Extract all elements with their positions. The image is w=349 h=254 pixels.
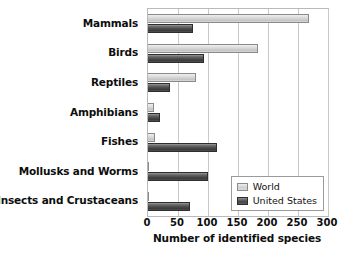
- plot-area: WorldUnited States: [147, 8, 329, 217]
- x-tick-label: 300: [317, 217, 338, 228]
- legend-swatch-us: [237, 197, 248, 205]
- bar-group: [148, 9, 328, 39]
- bar-group: [148, 98, 328, 128]
- bar-united-states: [148, 83, 170, 92]
- category-label: Insects and Crustaceans: [0, 185, 143, 215]
- x-tick-label: 50: [170, 217, 184, 228]
- bar-group: [148, 127, 328, 157]
- bar-world: [148, 103, 154, 112]
- bar-world: [148, 44, 258, 53]
- category-label: Amphibians: [0, 97, 143, 127]
- bar-united-states: [148, 54, 204, 63]
- bar-world: [148, 162, 149, 171]
- legend-label: United States: [253, 195, 317, 206]
- x-tick-label: 100: [197, 217, 218, 228]
- legend-label: World: [253, 181, 280, 192]
- x-tick-label: 200: [257, 217, 278, 228]
- bar-group: [148, 68, 328, 98]
- x-tick-label: 0: [144, 217, 151, 228]
- x-axis-title: Number of identified species: [147, 232, 327, 244]
- bar-world: [148, 14, 309, 23]
- legend-entry: United States: [237, 195, 317, 206]
- bar-united-states: [148, 202, 190, 211]
- legend-entry: World: [237, 181, 317, 192]
- bar-world: [148, 192, 149, 201]
- category-label: Mammals: [0, 8, 143, 38]
- bar-united-states: [148, 172, 208, 181]
- legend-swatch-world: [237, 183, 248, 191]
- x-tick-label: 150: [227, 217, 248, 228]
- category-label: Mollusks and Worms: [0, 156, 143, 186]
- bar-group: [148, 39, 328, 69]
- category-label: Reptiles: [0, 67, 143, 97]
- bar-united-states: [148, 24, 193, 33]
- category-axis: MammalsBirdsReptilesAmphibiansFishesMoll…: [0, 8, 143, 215]
- x-axis-tick-labels: 050100150200250300: [147, 217, 327, 230]
- bar-chart: MammalsBirdsReptilesAmphibiansFishesMoll…: [0, 0, 349, 254]
- bar-united-states: [148, 143, 217, 152]
- bar-united-states: [148, 113, 160, 122]
- x-tick-label: 250: [287, 217, 308, 228]
- bar-world: [148, 133, 155, 142]
- chart-legend: WorldUnited States: [231, 176, 324, 211]
- category-label: Birds: [0, 38, 143, 68]
- gridline: [328, 9, 329, 216]
- bar-world: [148, 73, 196, 82]
- category-label: Fishes: [0, 126, 143, 156]
